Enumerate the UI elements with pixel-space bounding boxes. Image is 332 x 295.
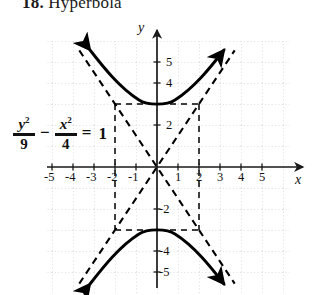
x-tick-label--1: -1 [128, 170, 138, 185]
x-tick-label-3: 3 [217, 170, 223, 185]
y-tick-label-2: 2 [166, 118, 172, 133]
equation-right-exponent: 2 [67, 115, 72, 125]
y-tick-label--4: -4 [159, 244, 169, 259]
y-tick-label--2: -2 [159, 202, 169, 217]
hyperbola-figure: 18. Hyperbola [0, 0, 332, 295]
equation-right-denominator: 4 [59, 136, 73, 152]
y-axis-label: y [138, 20, 144, 36]
x-axis-label: x [295, 172, 301, 188]
equation-left-exponent: 2 [25, 115, 30, 125]
x-tick-label--2: -2 [107, 170, 117, 185]
equation-right-hand-side: 1 [98, 125, 107, 142]
y-tick-label-5: 5 [166, 55, 172, 70]
equation-left-fraction: y2 9 [13, 116, 35, 152]
y-tick-label--5: -5 [159, 265, 169, 280]
x-tick-label--3: -3 [86, 170, 96, 185]
equation-right-numerator: x2 [57, 116, 75, 133]
equation-left-numerator: y2 [15, 116, 32, 133]
equation-operator: − [40, 124, 50, 143]
x-tick-label-1: 1 [175, 170, 181, 185]
x-tick-label-4: 4 [238, 170, 244, 185]
x-tick-label-5: 5 [259, 170, 265, 185]
hyperbola-equation: y2 9 − x2 4 = 1 [12, 116, 107, 152]
equation-left-denominator: 9 [17, 136, 31, 152]
equation-equals-sign: = [82, 124, 92, 143]
x-tick-label-2: 2 [196, 170, 202, 185]
x-tick-label--4: -4 [65, 170, 75, 185]
equation-right-fraction: x2 4 [55, 116, 77, 152]
y-tick-label-4: 4 [166, 76, 172, 91]
x-tick-label--5: -5 [44, 170, 54, 185]
